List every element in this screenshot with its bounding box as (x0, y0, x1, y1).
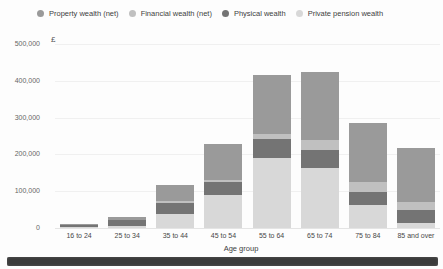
stacked-bar-85-and-over (397, 148, 435, 228)
stacked-bar-75-to-84 (349, 123, 387, 228)
chart-legend: Property wealth (net)Financial wealth (n… (37, 9, 383, 18)
x-axis-tick-labels: 16 to 2425 to 3435 to 4445 to 5455 to 64… (55, 232, 440, 239)
bar-segment-physical (397, 210, 435, 223)
legend-item-financial: Financial wealth (net) (129, 9, 212, 18)
x-axis-tick-label: 45 to 54 (199, 232, 247, 239)
legend-dot-icon (129, 10, 136, 17)
bar-segment-physical (204, 182, 242, 195)
y-axis-tick-label: 200,000 (0, 150, 40, 158)
legend-dot-icon (296, 10, 303, 17)
bar-segment-property (397, 148, 435, 202)
bar-segment-physical (253, 139, 291, 158)
bar-segment-pension (253, 158, 291, 228)
stacked-bar-55-to-64 (253, 75, 291, 228)
bar-segment-pension (60, 227, 98, 228)
stacked-bar-45-to-54 (204, 144, 242, 228)
y-axis-tick-label: 300,000 (0, 114, 40, 122)
x-axis-title: Age group (55, 244, 427, 253)
bar-segment-pension (397, 223, 435, 228)
x-axis-tick-label: 55 to 64 (248, 232, 296, 239)
stacked-bar-25-to-34 (108, 217, 146, 228)
bar-segment-property (349, 123, 387, 182)
bar-segment-property (156, 185, 194, 202)
legend-dot-icon (37, 10, 44, 17)
legend-dot-icon (222, 10, 229, 17)
x-axis-tick-label: 75 to 84 (344, 232, 392, 239)
stacked-bar-35-to-44 (156, 185, 194, 228)
legend-item-pension: Private pension wealth (296, 9, 383, 18)
legend-item-physical: Physical wealth (222, 9, 286, 18)
legend-label: Private pension wealth (308, 9, 383, 18)
x-axis-line (55, 228, 440, 229)
legend-item-property: Property wealth (net) (37, 9, 119, 18)
bar-segment-pension (156, 214, 194, 228)
y-axis-unit-label: £ (51, 35, 55, 44)
bar-segment-property (301, 72, 339, 140)
bar-segment-pension (349, 205, 387, 228)
stacked-bar-16-to-24 (60, 224, 98, 228)
x-axis-tick-label: 35 to 44 (151, 232, 199, 239)
y-axis-tick-label: 100,000 (0, 187, 40, 195)
stacked-bar-65-to-74 (301, 72, 339, 228)
bar-segment-physical (156, 203, 194, 214)
bar-segment-financial (397, 202, 435, 210)
bar-segment-financial (301, 140, 339, 150)
bar-series (55, 44, 440, 228)
x-axis-tick-label: 16 to 24 (55, 232, 103, 239)
y-axis-tick-label: 0 (0, 224, 40, 232)
x-axis-tick-label: 85 and over (392, 232, 440, 239)
bar-segment-financial (349, 182, 387, 192)
y-axis-tick-label: 400,000 (0, 77, 40, 85)
bar-segment-pension (301, 168, 339, 228)
bar-segment-physical (349, 192, 387, 205)
legend-label: Property wealth (net) (49, 9, 119, 18)
bar-segment-property (253, 75, 291, 134)
bar-segment-pension (204, 195, 242, 228)
y-axis-tick-label: 500,000 (0, 40, 40, 48)
legend-label: Physical wealth (234, 9, 286, 18)
x-axis-tick-label: 65 to 74 (296, 232, 344, 239)
x-axis-tick-label: 25 to 34 (103, 232, 151, 239)
plot-area (55, 44, 440, 228)
legend-label: Financial wealth (net) (141, 9, 212, 18)
bar-segment-pension (108, 226, 146, 228)
bottom-dark-strip (7, 257, 438, 266)
bar-segment-physical (301, 150, 339, 168)
bar-segment-property (204, 144, 242, 180)
